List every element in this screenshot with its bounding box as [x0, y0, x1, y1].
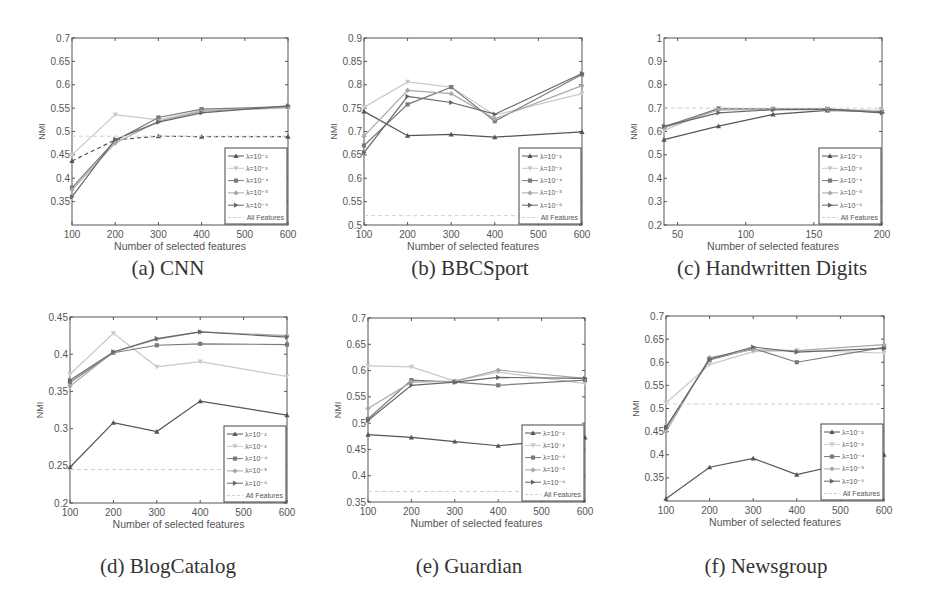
- legend-entry: λ=10⁻⁶: [842, 478, 864, 485]
- x-tick-label: 100: [658, 505, 675, 516]
- chart-svg: 1002003004005006000.350.40.450.50.550.60…: [0, 0, 928, 599]
- x-tick-label: 600: [876, 505, 893, 516]
- x-tick-label: 300: [745, 505, 762, 516]
- y-tick-label: 0.7: [650, 311, 664, 322]
- legend-entry: λ=10⁻³: [842, 441, 864, 448]
- x-tick-label: 500: [832, 505, 849, 516]
- series-2: [663, 349, 886, 406]
- triangle-down-marker-icon: [663, 401, 668, 406]
- y-tick-label: 0.4: [650, 449, 664, 460]
- series-3: [664, 345, 886, 429]
- y-tick-label: 0.65: [645, 334, 665, 345]
- legend-entry: λ=10⁻⁴: [842, 453, 864, 460]
- y-tick-label: 0.5: [650, 403, 664, 414]
- square-marker-icon: [795, 360, 799, 364]
- x-tick-label: 200: [701, 505, 718, 516]
- legend: λ=10⁻²λ=10⁻³λ=10⁻⁴λ=10⁻⁵λ=10⁻⁶All Featur…: [821, 424, 883, 500]
- series-5: [664, 344, 887, 430]
- square-marker-icon: [830, 455, 834, 459]
- triangle-marker-icon: [751, 456, 756, 461]
- subfigure-caption: (f) Newsgroup: [666, 554, 866, 579]
- x-axis-label: Number of selected features: [709, 516, 841, 528]
- y-tick-label: 0.45: [645, 426, 665, 437]
- x-tick-label: 400: [788, 505, 805, 516]
- y-tick-label: 0.35: [645, 472, 665, 483]
- legend-entry: λ=10⁻⁵: [842, 465, 864, 472]
- legend-entry: λ=10⁻²: [842, 429, 864, 436]
- y-axis-label: NMI: [631, 400, 641, 417]
- y-tick-label: 0.55: [645, 380, 665, 391]
- y-tick-label: 0.6: [650, 357, 664, 368]
- legend-entry: All Features: [843, 490, 881, 497]
